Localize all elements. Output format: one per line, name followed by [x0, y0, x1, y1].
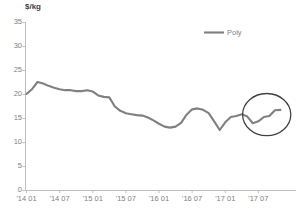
legend-label-poly: Poly — [227, 28, 242, 37]
x-tick-label: '17 07 — [236, 195, 280, 203]
series-line-poly — [27, 82, 281, 130]
y-tick-label: 25 — [2, 66, 22, 74]
y-tick-label: 5 — [2, 162, 22, 170]
y-tick-label: 0 — [2, 186, 22, 194]
chart-canvas — [0, 0, 301, 215]
y-tick-label: 20 — [2, 90, 22, 98]
y-tick-label: 10 — [2, 138, 22, 146]
y-tick-label: 35 — [2, 18, 22, 26]
poly-price-chart: $/kg Poly 05101520253035 '14 01'14 07'15… — [0, 0, 301, 215]
axis-ticks — [23, 23, 259, 194]
highlight-ellipse — [243, 94, 291, 136]
y-tick-label: 30 — [2, 42, 22, 50]
y-tick-label: 15 — [2, 114, 22, 122]
